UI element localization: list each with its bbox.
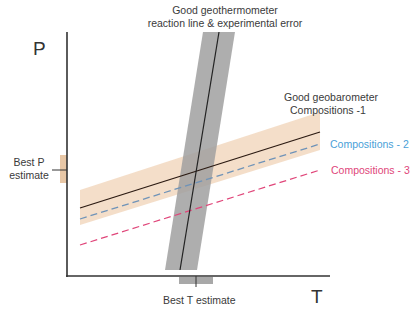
geothermometer-title-line2: reaction line & experimental error (130, 17, 320, 30)
x-axis-label: T (311, 286, 323, 308)
geobarometer-label-line2: Compositions -1 (284, 104, 378, 117)
geobarometer-label-line1: Good geobarometer (284, 91, 378, 104)
best-p-label: Best P estimate (6, 156, 52, 182)
best-p-label-line2: estimate (6, 169, 52, 182)
geothermometer-title-line1: Good geothermometer (130, 4, 320, 17)
geothermometer-title: Good geothermometer reaction line & expe… (130, 4, 320, 30)
composition-2-label: Compositions - 2 (330, 138, 409, 151)
composition-3-label: Compositions - 3 (331, 164, 410, 177)
geobarometer-label: Good geobarometer Compositions -1 (284, 91, 378, 117)
best-p-label-line1: Best P (6, 156, 52, 169)
best-t-label: Best T estimate (163, 294, 236, 307)
pt-diagram (0, 0, 417, 318)
best-p-marker (60, 155, 67, 183)
y-axis-label: P (33, 38, 46, 60)
